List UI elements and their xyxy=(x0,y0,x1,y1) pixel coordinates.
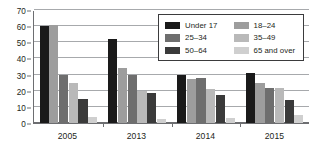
y-axis-tick-mark xyxy=(27,27,31,28)
y-axis-tick-mark xyxy=(27,11,31,12)
bar-group-inner xyxy=(40,11,98,123)
y-axis-tick-mark xyxy=(27,124,31,125)
y-axis-tick-mark xyxy=(27,75,31,76)
bar xyxy=(216,95,225,123)
chart-legend: Under 1718–2425–3435–4950–6465 and over xyxy=(158,14,304,61)
bar xyxy=(157,119,166,123)
y-axis-tick-label: 50 xyxy=(17,39,26,48)
legend-swatch xyxy=(234,34,249,42)
bar xyxy=(187,79,196,123)
legend-item[interactable]: Under 17 xyxy=(165,21,230,30)
legend-swatch xyxy=(165,47,180,55)
bar-group xyxy=(34,11,103,123)
legend-item[interactable]: 65 and over xyxy=(234,46,299,55)
bar xyxy=(285,100,294,123)
legend-swatch xyxy=(234,47,249,55)
bar xyxy=(275,88,284,124)
y-axis-tick-label: 30 xyxy=(17,71,26,80)
legend-grid: Under 1718–2425–3435–4950–6465 and over xyxy=(165,19,298,57)
y-axis-tick-label: 70 xyxy=(17,7,26,16)
bar xyxy=(40,26,49,123)
y-axis-tick-mark xyxy=(27,107,31,108)
bar xyxy=(246,73,255,123)
legend-item-label: 25–34 xyxy=(185,33,207,42)
bar xyxy=(78,99,87,123)
y-axis-tick-label: 0 xyxy=(21,120,26,129)
bar xyxy=(226,118,235,123)
bar xyxy=(265,88,274,123)
legend-swatch xyxy=(165,34,180,42)
bar xyxy=(59,75,68,123)
y-axis-tick-mark xyxy=(27,91,31,92)
x-axis: 2005201320142015 xyxy=(33,127,309,145)
bar xyxy=(69,83,78,123)
legend-item[interactable]: 35–49 xyxy=(234,33,299,42)
legend-item-label: 35–49 xyxy=(254,33,276,42)
y-axis: 010203040506070 xyxy=(0,11,31,124)
bar xyxy=(128,75,137,123)
x-axis-tick-label: 2014 xyxy=(171,127,240,145)
x-axis-tick-label: 2015 xyxy=(240,127,309,145)
legend-item[interactable]: 25–34 xyxy=(165,33,230,42)
legend-item[interactable]: 18–24 xyxy=(234,21,299,30)
legend-swatch xyxy=(165,22,180,30)
legend-item[interactable]: 50–64 xyxy=(165,46,230,55)
legend-swatch xyxy=(234,22,249,30)
legend-item-label: 18–24 xyxy=(254,21,276,30)
y-axis-tick-mark xyxy=(27,43,31,44)
legend-item-label: 65 and over xyxy=(254,46,296,55)
legend-item-label: 50–64 xyxy=(185,46,207,55)
bar xyxy=(147,93,156,123)
y-axis-tick-label: 40 xyxy=(17,55,26,64)
bar xyxy=(196,78,205,123)
legend-item-label: Under 17 xyxy=(185,21,217,30)
bar-chart: 010203040506070 2005201320142015 Under 1… xyxy=(0,0,319,157)
bar xyxy=(49,25,58,123)
y-axis-tick-label: 60 xyxy=(17,23,26,32)
y-axis-tick-mark xyxy=(27,59,31,60)
gridline xyxy=(34,9,309,10)
bar xyxy=(108,39,117,123)
x-axis-tick-label: 2005 xyxy=(33,127,102,145)
bar xyxy=(88,117,97,123)
bar xyxy=(118,68,127,123)
x-axis-tick-label: 2013 xyxy=(102,127,171,145)
bar xyxy=(294,115,303,123)
bar xyxy=(206,89,215,123)
y-axis-tick-label: 10 xyxy=(17,103,26,112)
bar xyxy=(137,91,146,123)
y-axis-tick-label: 20 xyxy=(17,87,26,96)
bar xyxy=(255,83,264,123)
bar xyxy=(177,75,186,123)
